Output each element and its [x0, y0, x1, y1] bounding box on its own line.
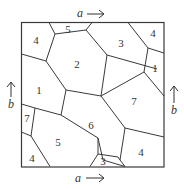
- region-label-2: 2: [74, 58, 80, 70]
- region-label-4-bottomright: 4: [138, 146, 144, 158]
- region-label-7-right: 7: [131, 95, 137, 107]
- region-labels: 4 5 3 4 2 1 1 7 6 7 5 4 3 4: [24, 23, 158, 167]
- top-edge-label: a: [77, 6, 83, 20]
- region-label-4-topright: 4: [150, 27, 156, 39]
- region-label-4-topleft: 4: [33, 34, 39, 46]
- left-arrow-icon: [7, 82, 15, 97]
- left-edge-label: b: [8, 97, 14, 111]
- region-label-3-bottom: 3: [100, 155, 106, 167]
- region-label-4-bottomleft: 4: [29, 152, 35, 164]
- right-arrow-icon: [170, 86, 178, 103]
- region-label-1-left: 1: [36, 84, 42, 96]
- region-label-3-top: 3: [118, 37, 124, 49]
- polygon-map-diagram: 4 5 3 4 2 1 1 7 6 7 5 4 3 4 a a b b: [0, 0, 184, 189]
- region-label-5-bottom: 5: [55, 136, 61, 148]
- region-edges: [22, 23, 165, 167]
- bottom-arrow-icon: [86, 174, 104, 182]
- top-arrow-icon: [87, 10, 104, 18]
- region-label-5-top: 5: [65, 23, 71, 35]
- bottom-edge-label: a: [75, 171, 81, 185]
- region-label-6: 6: [88, 119, 94, 131]
- right-edge-label: b: [171, 103, 177, 117]
- region-label-7-left: 7: [24, 112, 30, 124]
- region-label-1-right: 1: [152, 62, 158, 74]
